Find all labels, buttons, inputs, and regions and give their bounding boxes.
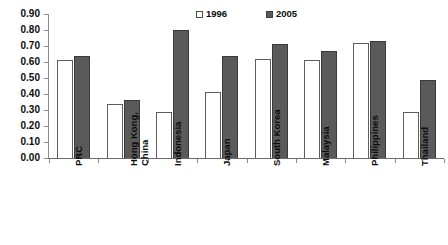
bar-1996 bbox=[156, 112, 172, 158]
x-axis-category-label: Indonesia bbox=[173, 122, 184, 166]
bar-1996 bbox=[403, 112, 419, 158]
bar-1996 bbox=[205, 92, 221, 158]
y-axis-tick-label: 0.40 bbox=[0, 89, 40, 99]
y-axis-tick-label: 0.60 bbox=[0, 57, 40, 67]
x-axis-tick-mark bbox=[395, 159, 396, 163]
bar-group bbox=[49, 14, 98, 158]
y-axis-tick-label: 0.90 bbox=[0, 9, 40, 19]
bar-1996 bbox=[107, 104, 123, 158]
bar-group bbox=[197, 14, 246, 158]
x-axis-category-label: Hong Kong, China bbox=[129, 112, 150, 166]
x-axis-tick-mark bbox=[345, 159, 346, 163]
y-axis-tick-label: 0.30 bbox=[0, 105, 40, 115]
x-axis-tick-mark bbox=[49, 159, 50, 163]
x-axis-tick-mark bbox=[197, 159, 198, 163]
y-axis-tick-label: 0.70 bbox=[0, 41, 40, 51]
x-axis-category-label: Thailand bbox=[420, 127, 431, 166]
y-axis-tick-label: 0.20 bbox=[0, 121, 40, 131]
bar-1996 bbox=[255, 59, 271, 158]
x-axis-category-label: PRC bbox=[74, 146, 85, 166]
bar-chart: 1996 2005 0.900.800.700.600.500.400.300.… bbox=[0, 0, 448, 245]
x-axis-category-label: South Korea bbox=[272, 110, 283, 166]
plot-area bbox=[49, 14, 444, 158]
x-axis-tick-mark bbox=[247, 159, 248, 163]
bar-2005 bbox=[74, 56, 90, 158]
y-axis-tick-label: 0.50 bbox=[0, 73, 40, 83]
x-axis-tick-mark bbox=[98, 159, 99, 163]
x-axis-category-label: Japan bbox=[222, 139, 233, 166]
x-axis-category-label: Malaysia bbox=[321, 126, 332, 166]
x-axis-category-label: Philippines bbox=[370, 115, 381, 166]
y-axis-tick-label: 0.80 bbox=[0, 25, 40, 35]
bar-1996 bbox=[304, 60, 320, 158]
y-axis-tick-label: 0.10 bbox=[0, 137, 40, 147]
bar-1996 bbox=[353, 43, 369, 158]
x-axis-tick-mark bbox=[296, 159, 297, 163]
y-axis-tick-label: 0.00 bbox=[0, 153, 40, 163]
x-axis-tick-mark bbox=[444, 159, 445, 163]
bar-1996 bbox=[57, 60, 73, 158]
